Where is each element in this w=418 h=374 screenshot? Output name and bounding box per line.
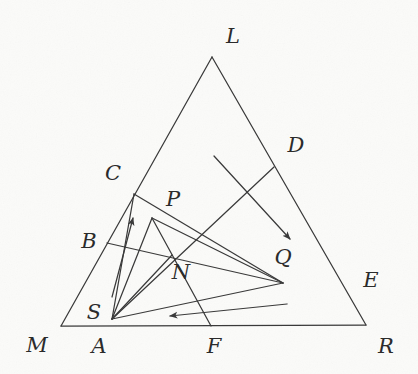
point-label-B: B [81, 231, 96, 252]
point-label-F: F [207, 336, 222, 357]
point-label-M: M [26, 335, 48, 356]
point-label-D: D [288, 135, 305, 156]
geometry-figure: LDCPBQENSMAFR [0, 0, 418, 374]
point-label-Q: Q [274, 247, 291, 268]
paper-texture [0, 0, 418, 374]
point-label-E: E [363, 270, 378, 291]
point-label-L: L [226, 26, 240, 47]
point-label-S: S [87, 302, 101, 323]
point-label-A: A [91, 336, 106, 357]
point-label-R: R [378, 336, 394, 357]
point-label-C: C [105, 163, 121, 184]
figure-canvas [0, 0, 418, 374]
point-label-N: N [172, 262, 190, 283]
point-label-P: P [166, 189, 180, 210]
